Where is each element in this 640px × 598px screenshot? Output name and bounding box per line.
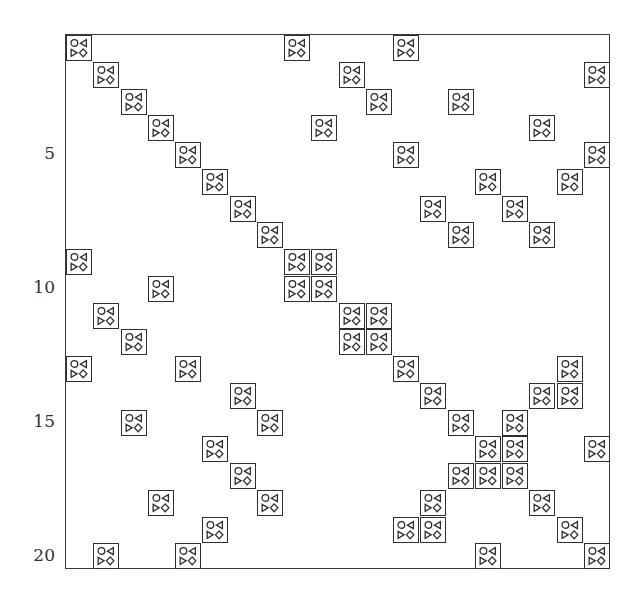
matrix-cell [366,89,392,115]
matrix-cell [257,490,283,516]
triangle-left-icon [244,387,250,394]
triangle-right-icon [589,76,595,83]
triangle-left-icon [326,120,332,127]
triangle-right-icon [453,237,459,244]
triangle-right-icon [589,558,595,565]
diamond-icon [216,450,223,458]
triangle-right-icon [153,504,159,511]
triangle-right-icon [534,130,540,137]
matrix-cell [202,436,228,462]
circle-icon [207,441,214,448]
triangle-left-icon [162,120,168,127]
diamond-icon [352,316,359,324]
circle-icon [71,361,78,368]
diamond-icon [134,423,141,431]
triangle-left-icon [353,307,359,314]
triangle-left-icon [544,494,550,501]
triangle-right-icon [507,477,513,484]
matrix-cell [366,303,392,329]
triangle-right-icon [480,183,486,190]
triangle-left-icon [244,200,250,207]
triangle-right-icon [344,76,350,83]
triangle-right-icon [98,317,104,324]
matrix-cell [393,35,419,61]
circle-icon [534,387,541,394]
matrix-cell [284,276,310,302]
diamond-icon [515,209,522,217]
triangle-left-icon [407,521,413,528]
triangle-left-icon [326,254,332,261]
diamond-icon [461,236,468,244]
diamond-icon [79,263,86,271]
circle-icon [153,494,160,501]
matrix-cell [66,35,92,61]
y-tick-label: 20 [15,545,55,565]
matrix-cell [339,62,365,88]
triangle-right-icon [235,397,241,404]
circle-icon [507,468,514,475]
diamond-icon [270,504,277,512]
plot-area [65,34,610,569]
triangle-left-icon [108,548,114,555]
circle-icon [453,468,460,475]
circle-icon [453,414,460,421]
diamond-icon [543,504,550,512]
matrix-cell [175,142,201,168]
matrix-cell [557,383,583,409]
triangle-left-icon [571,361,577,368]
circle-icon [425,521,432,528]
triangle-left-icon [571,521,577,528]
triangle-right-icon [262,424,268,431]
diamond-icon [515,450,522,458]
triangle-right-icon [316,130,322,137]
triangle-right-icon [316,263,322,270]
diamond-icon [406,49,413,57]
triangle-right-icon [126,344,132,351]
matrix-cell [257,410,283,436]
circle-icon [344,334,351,341]
triangle-right-icon [71,370,77,377]
matrix-cell [529,383,555,409]
triangle-right-icon [398,156,404,163]
diamond-icon [434,209,441,217]
triangle-left-icon [298,254,304,261]
circle-icon [71,40,78,47]
circle-icon [562,387,569,394]
triangle-right-icon [534,237,540,244]
matrix-cell [257,222,283,248]
diamond-icon [597,450,604,458]
triangle-right-icon [480,558,486,565]
circle-icon [316,254,323,261]
diamond-icon [434,504,441,512]
matrix-cell [448,89,474,115]
triangle-left-icon [489,441,495,448]
circle-icon [289,40,296,47]
matrix-cell [557,169,583,195]
diamond-icon [597,76,604,84]
triangle-right-icon [562,397,568,404]
triangle-right-icon [425,210,431,217]
matrix-cell [393,142,419,168]
triangle-right-icon [589,156,595,163]
triangle-right-icon [398,531,404,538]
circle-icon [562,521,569,528]
triangle-left-icon [271,414,277,421]
matrix-cell [393,517,419,543]
matrix-cell [420,383,446,409]
circle-icon [480,548,487,555]
diamond-icon [243,209,250,217]
circle-icon [207,521,214,528]
circle-icon [180,147,187,154]
matrix-cell [148,276,174,302]
triangle-left-icon [80,254,86,261]
matrix-cell [93,62,119,88]
circle-icon [507,441,514,448]
circle-icon [425,494,432,501]
circle-icon [480,173,487,180]
triangle-right-icon [562,370,568,377]
triangle-right-icon [534,397,540,404]
matrix-cell [339,329,365,355]
triangle-right-icon [98,76,104,83]
circle-icon [71,254,78,261]
matrix-cell [311,276,337,302]
